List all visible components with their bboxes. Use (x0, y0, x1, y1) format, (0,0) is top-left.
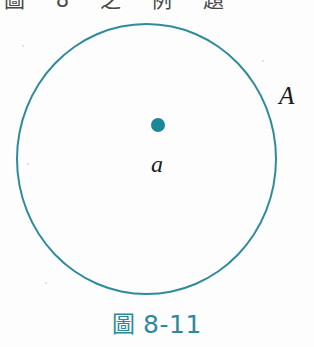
figure-caption-word: 圖 (112, 311, 135, 337)
element-a-dot (151, 118, 165, 132)
set-a-label: A (279, 83, 294, 108)
figure-caption-number: 8-11 (143, 310, 202, 339)
figure-caption: 圖 8-11 (0, 310, 314, 339)
clipped-text-line: 圖 8 之 例 題 (4, 0, 236, 12)
set-a-circle (16, 23, 277, 295)
scan-speckle (45, 282, 47, 284)
element-a-label: a (151, 152, 163, 176)
clipped-text-strip: 圖 8 之 例 題 (0, 0, 314, 12)
figure-page: 圖 8 之 例 題 A a 圖 8-11 (0, 0, 314, 347)
scan-speckle (22, 45, 24, 47)
scan-speckle (262, 60, 264, 62)
